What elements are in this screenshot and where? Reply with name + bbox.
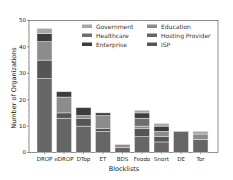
bar-feodo (135, 110, 150, 152)
y-tick-label: 10 (19, 123, 26, 129)
bar-segment (154, 142, 169, 153)
y-axis-title: Number of Organizations (10, 47, 18, 129)
bar-segment (76, 108, 91, 116)
bar-segment (154, 131, 169, 136)
legend-label: ISP (161, 41, 171, 48)
bar-segment (193, 131, 208, 134)
bar-de (174, 131, 189, 152)
bar-segment (154, 123, 169, 126)
bar-segment (96, 129, 111, 132)
bar-segment (37, 34, 52, 42)
x-tick-label: eDROP (54, 156, 74, 162)
x-tick-label: DTop (77, 156, 91, 163)
bar-segment (135, 118, 150, 126)
bar-snort (154, 123, 169, 152)
legend-label: Government (96, 23, 134, 30)
bar-segment (135, 113, 150, 118)
legend-swatch (147, 34, 157, 38)
y-tick-label: 0 (23, 149, 27, 155)
y-tick-label: 40 (19, 44, 26, 50)
y-axis: 01020304050 (19, 17, 29, 155)
bar-segment (174, 131, 189, 152)
stacked-bar-chart: 01020304050 DROPeDROPDTopETBDSFeodoSnort… (0, 0, 233, 180)
bar-dtop (76, 108, 91, 153)
bar-segment (37, 79, 52, 153)
y-tick-label: 50 (19, 17, 26, 23)
bar-segment (37, 42, 52, 60)
bar-bds (115, 145, 130, 153)
legend-label: Enterprise (96, 41, 127, 49)
x-axis: DROPeDROPDTopETBDSFeodoSnortDETor (37, 153, 206, 163)
legend-label: Education (161, 23, 191, 30)
bar-segment (96, 116, 111, 129)
y-tick-label: 30 (19, 70, 26, 76)
legend-swatch (147, 43, 157, 47)
legend: GovernmentEducationHealthcareHosting Pro… (82, 23, 211, 49)
x-tick-label: Tor (195, 156, 205, 162)
legend-swatch (147, 25, 157, 29)
bar-drop (37, 28, 52, 152)
legend-swatch (82, 34, 92, 38)
legend-label: Hosting Provider (161, 32, 211, 40)
bar-segment (76, 118, 91, 126)
bar-segment (96, 131, 111, 152)
bar-segment (154, 126, 169, 131)
bar-segment (115, 145, 130, 148)
bar-segment (57, 118, 72, 152)
bar-segment (135, 137, 150, 153)
bar-segment (154, 137, 169, 142)
bar-segment (76, 116, 91, 119)
x-tick-label: BDS (117, 156, 129, 162)
y-tick-label: 20 (19, 97, 26, 103)
bar-segment (135, 126, 150, 129)
bar-segment (76, 126, 91, 152)
bar-segment (57, 113, 72, 118)
legend-swatch (82, 25, 92, 29)
bar-segment (115, 147, 130, 152)
x-tick-label: DE (177, 156, 185, 162)
bar-edrop (57, 92, 72, 153)
bar-segment (135, 129, 150, 137)
bar-segment (57, 97, 72, 113)
bar-segment (57, 92, 72, 97)
x-tick-label: ET (100, 156, 107, 162)
x-tick-label: Snort (154, 156, 170, 162)
legend-label: Healthcare (96, 32, 129, 39)
x-tick-label: Feodo (134, 156, 151, 162)
legend-swatch (82, 43, 92, 47)
bar-segment (37, 60, 52, 78)
bar-tor (193, 131, 208, 152)
bar-segment (193, 139, 208, 152)
bar-segment (96, 113, 111, 116)
bar-segment (37, 28, 52, 33)
bar-segment (193, 134, 208, 139)
bar-segment (135, 110, 150, 113)
x-tick-label: DROP (37, 156, 53, 162)
bar-et (96, 113, 111, 153)
x-axis-title: Blocklists (109, 165, 140, 173)
